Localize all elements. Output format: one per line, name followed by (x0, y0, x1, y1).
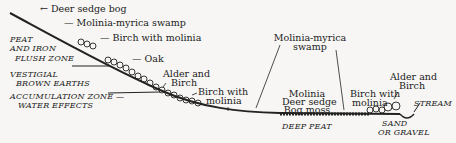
zone-vestigial-1: VESTIGIAL (10, 70, 58, 79)
zone-peat-iron-1: PEAT (10, 35, 33, 44)
zone-accumulation-1: ACCUMULATION ZONE — (10, 92, 124, 101)
stream-hollow (400, 114, 414, 118)
zone-peat-iron-2: AND IRON (10, 44, 56, 53)
label-bog-moss: Bog moss (282, 105, 332, 115)
label-sand: SAND (382, 119, 407, 128)
label-deep-peat: DEEP PEAT (282, 122, 332, 131)
label-deer-sedge-bog: ← Deer sedge bog (40, 4, 127, 14)
label-or-gravel: OR GRAVEL (378, 128, 430, 137)
label-molinia-myrica-swamp-right-2: swamp (272, 42, 348, 52)
label-birch-with-molinia-right-2: molinia (352, 98, 388, 108)
zone-peat-iron-3: FLUSH ZONE (15, 54, 74, 63)
pointer-swamp-right (336, 50, 344, 110)
label-alder-birch-right-2: Birch (390, 81, 434, 91)
label-molinia-myrica-swamp-top: — Molinia-myrica swamp (64, 18, 186, 28)
pointer-swamp-left (256, 45, 280, 108)
label-oak: — Oak (132, 54, 164, 64)
label-stream: STREAM (414, 99, 452, 108)
zone-vestigial-2: BROWN EARTHS (16, 79, 90, 88)
label-birch-with-molinia-mid-2: molinia (206, 96, 242, 106)
zone-accumulation-2: WATER EFFECTS (18, 101, 93, 110)
pointer-birch-mid (192, 93, 197, 95)
label-birch-with-molinia-top: — Birch with molinia (100, 33, 201, 43)
